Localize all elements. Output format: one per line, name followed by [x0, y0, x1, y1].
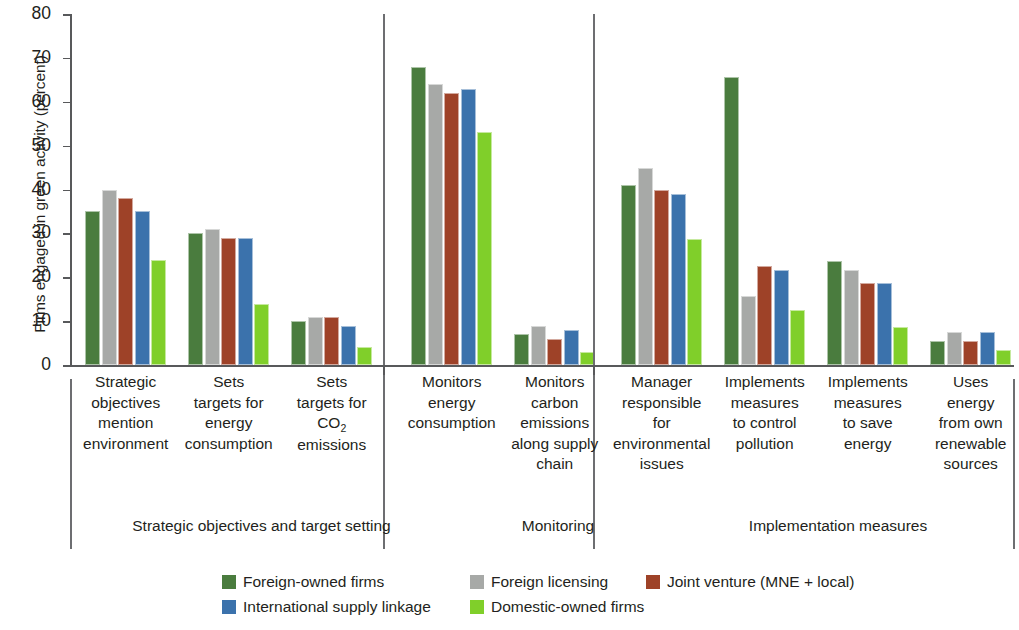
x-axis-category-label: Monitorsenergyconsumption — [400, 372, 503, 434]
bar — [877, 283, 892, 365]
x-axis-line — [70, 365, 1014, 367]
bar — [790, 310, 805, 365]
bar — [827, 261, 842, 365]
supergroup-label: Implementation measures — [663, 517, 1013, 535]
y-axis-tick-label: 0 — [41, 354, 51, 375]
bar — [774, 270, 789, 365]
bar — [930, 341, 945, 365]
bar — [757, 266, 772, 365]
legend-item[interactable]: International supply linkage — [222, 599, 431, 615]
bar — [654, 190, 669, 366]
bar — [291, 321, 306, 365]
legend-swatch-icon — [646, 575, 660, 589]
bar — [741, 296, 756, 365]
y-axis-tick — [63, 102, 70, 104]
x-axis-category-label: Managerresponsibleforenvironmentalissues — [610, 372, 713, 475]
y-axis-tick — [63, 146, 70, 148]
x-axis-category-label: Usesenergyfrom ownrenewablesources — [919, 372, 1019, 475]
bar — [411, 67, 426, 365]
legend-label: Foreign licensing — [491, 574, 608, 590]
bar — [860, 283, 875, 365]
supergroup-label: Monitoring — [453, 517, 663, 535]
y-axis-tick-label: 30 — [32, 222, 51, 243]
y-axis-tick — [63, 58, 70, 60]
bar — [428, 84, 443, 365]
y-axis-tick-label: 80 — [32, 3, 51, 24]
bar — [324, 317, 339, 365]
y-axis-tick-label: 20 — [32, 266, 51, 287]
bar — [205, 229, 220, 365]
legend-swatch-icon — [222, 575, 236, 589]
bar — [135, 211, 150, 365]
bar — [188, 233, 203, 365]
bar — [102, 190, 117, 366]
x-axis-category-label: Implementsmeasuresto controlpollution — [713, 372, 816, 454]
bar — [687, 239, 702, 365]
bar — [461, 89, 476, 365]
legend-label: Joint venture (MNE + local) — [667, 574, 854, 590]
bar — [221, 238, 236, 365]
legend-item[interactable]: Joint venture (MNE + local) — [646, 574, 854, 590]
bar — [724, 77, 739, 365]
bar — [85, 211, 100, 365]
bar — [254, 304, 269, 365]
bar — [444, 93, 459, 365]
supergroup-labels: Strategic objectives and target settingM… — [70, 517, 1014, 547]
y-axis-tick-label: 40 — [32, 179, 51, 200]
supergroup-label: Strategic objectives and target setting — [70, 517, 453, 535]
legend-swatch-icon — [222, 600, 236, 614]
bar — [341, 326, 356, 365]
bar — [118, 198, 133, 365]
bar — [308, 317, 323, 365]
bar — [671, 194, 686, 365]
bar — [531, 326, 546, 365]
x-axis-category-label: Implementsmeasuresto saveenergy — [816, 372, 919, 454]
bar — [547, 339, 562, 365]
y-axis-tick-label: 70 — [32, 47, 51, 68]
bar — [844, 270, 859, 365]
chart-legend: Foreign-owned firmsForeign licensingJoin… — [222, 574, 922, 624]
bar — [980, 332, 995, 365]
legend-label: Domestic-owned firms — [491, 599, 644, 615]
bar — [151, 260, 166, 365]
bar — [638, 168, 653, 365]
y-axis-tick — [63, 14, 70, 16]
y-axis-tick — [63, 365, 70, 367]
legend-swatch-icon — [470, 575, 484, 589]
bar — [477, 132, 492, 365]
x-axis-category-label: Monitorscarbonemissionsalong supplychain — [503, 372, 606, 475]
y-axis-tick-label: 50 — [32, 135, 51, 156]
y-axis-tick — [63, 321, 70, 323]
legend-item[interactable]: Foreign licensing — [470, 574, 608, 590]
bar — [357, 347, 372, 365]
legend-swatch-icon — [470, 600, 484, 614]
bar — [238, 238, 253, 365]
legend-item[interactable]: Foreign-owned firms — [222, 574, 384, 590]
bar — [893, 327, 908, 365]
y-axis-tick-labels: 01020304050607080 — [0, 14, 62, 365]
bar — [996, 350, 1011, 365]
bar — [564, 330, 579, 365]
bar — [514, 334, 529, 365]
bar — [963, 341, 978, 365]
plot-area — [70, 14, 1014, 365]
y-axis-tick-label: 60 — [32, 91, 51, 112]
x-axis-category-label: Setstargets forCO2emissions — [280, 372, 383, 455]
x-axis-category-label: Setstargets forenergyconsumption — [177, 372, 280, 454]
legend-label: Foreign-owned firms — [243, 574, 384, 590]
legend-item[interactable]: Domestic-owned firms — [470, 599, 644, 615]
legend-label: International supply linkage — [243, 599, 431, 615]
bar — [947, 332, 962, 365]
y-axis-tick — [63, 277, 70, 279]
y-axis-line — [70, 14, 72, 365]
bar — [621, 185, 636, 365]
y-axis-tick — [63, 233, 70, 235]
x-axis-category-labels: StrategicobjectivesmentionenvironmentSet… — [70, 372, 1014, 502]
x-axis-category-label: Strategicobjectivesmentionenvironment — [74, 372, 177, 454]
y-axis-tick-label: 10 — [32, 310, 51, 331]
y-axis-tick — [63, 190, 70, 192]
